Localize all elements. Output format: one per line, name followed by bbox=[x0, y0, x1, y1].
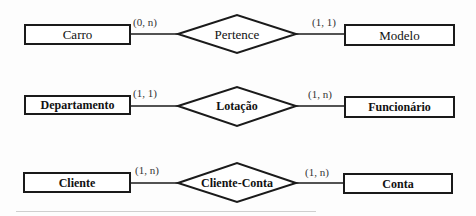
bottom-divider bbox=[16, 211, 316, 212]
entity-label: Cliente bbox=[59, 177, 96, 189]
cardinality-funcionario: (1, n) bbox=[308, 89, 332, 100]
entity-label: Conta bbox=[382, 178, 413, 190]
entity-departamento: Departamento bbox=[24, 95, 131, 115]
entity-cliente: Cliente bbox=[23, 172, 131, 193]
entity-label: Carro bbox=[63, 28, 93, 41]
entity-funcionario: Funcionário bbox=[344, 96, 455, 118]
cardinality-conta: (1, n) bbox=[305, 167, 329, 178]
entity-modelo: Modelo bbox=[344, 24, 455, 46]
cardinality-cliente: (1, n) bbox=[135, 165, 159, 176]
entity-carro: Carro bbox=[24, 24, 131, 45]
relationship-label-pertence: Pertence bbox=[215, 28, 260, 41]
entity-conta: Conta bbox=[343, 173, 453, 194]
er-diagram-canvas: Carro (0, n) Pertence (1, 1) Modelo Depa… bbox=[0, 0, 476, 216]
entity-label: Departamento bbox=[41, 99, 115, 111]
relationship-label-cliente-conta: Cliente-Conta bbox=[201, 177, 273, 189]
relationship-label-lotacao: Lotação bbox=[216, 100, 257, 112]
cardinality-carro: (0, n) bbox=[133, 17, 157, 28]
cardinality-modelo: (1, 1) bbox=[312, 17, 336, 28]
entity-label: Funcionário bbox=[368, 101, 431, 113]
entity-label: Modelo bbox=[379, 29, 419, 42]
cardinality-departamento: (1, 1) bbox=[133, 88, 157, 99]
